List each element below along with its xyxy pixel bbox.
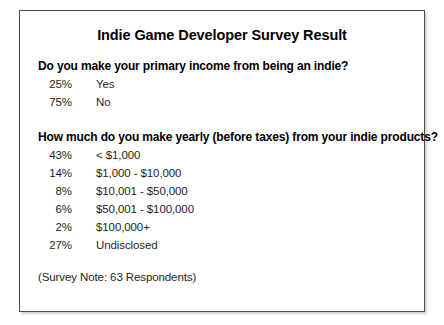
section-heading: Do you make your primary income from bei… — [38, 59, 424, 73]
answer-label: < $1,000 — [72, 149, 140, 161]
answer-label: $10,001 - $50,000 — [72, 185, 188, 197]
list-item: 27% Undisclosed — [38, 239, 424, 257]
percent-value: 2% — [38, 221, 72, 233]
list-item: 2% $100,000+ — [38, 221, 424, 239]
list-item: 14% $1,000 - $10,000 — [38, 167, 424, 185]
percent-value: 8% — [38, 185, 72, 197]
list-item: 25% Yes — [38, 78, 424, 96]
page-title: Indie Game Developer Survey Result — [20, 27, 424, 43]
section-heading: How much do you make yearly (before taxe… — [38, 130, 424, 144]
answer-label: $50,001 - $100,000 — [72, 203, 194, 215]
percent-value: 14% — [38, 167, 72, 179]
percent-value: 25% — [38, 78, 72, 90]
result-list: 25% Yes 75% No — [38, 78, 424, 114]
survey-result-card: Indie Game Developer Survey Result Do yo… — [19, 10, 425, 312]
list-item: 75% No — [38, 96, 424, 114]
section-yearly-income: How much do you make yearly (before taxe… — [20, 130, 424, 257]
answer-label: No — [72, 96, 111, 108]
result-list: 43% < $1,000 14% $1,000 - $10,000 8% $10… — [38, 149, 424, 257]
percent-value: 6% — [38, 203, 72, 215]
section-primary-income: Do you make your primary income from bei… — [20, 59, 424, 114]
percent-value: 27% — [38, 239, 72, 251]
answer-label: $100,000+ — [72, 221, 150, 233]
percent-value: 43% — [38, 149, 72, 161]
list-item: 6% $50,001 - $100,000 — [38, 203, 424, 221]
answer-label: Yes — [72, 78, 114, 90]
list-item: 43% < $1,000 — [38, 149, 424, 167]
list-item: 8% $10,001 - $50,000 — [38, 185, 424, 203]
answer-label: $1,000 - $10,000 — [72, 167, 181, 179]
answer-label: Undisclosed — [72, 239, 158, 251]
percent-value: 75% — [38, 96, 72, 108]
survey-note: (Survey Note: 63 Respondents) — [20, 271, 424, 283]
